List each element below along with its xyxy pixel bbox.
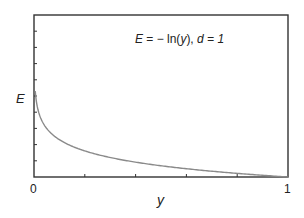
x-axis-label: y xyxy=(156,192,165,208)
annotation: E = − ln(y), d = 1 xyxy=(135,32,224,46)
annotation-val: = 1 xyxy=(204,32,224,46)
chart: E = − ln(y), d = 1 E y 0 1 xyxy=(0,0,304,218)
x-tick-label-0: 0 xyxy=(30,182,37,196)
x-tick-label-1: 1 xyxy=(284,182,291,196)
y-axis-label: E xyxy=(16,91,25,106)
annotation-close: ), xyxy=(186,32,197,46)
curve-neg-ln xyxy=(35,91,288,177)
annotation-eq: = − ln( xyxy=(143,32,180,46)
